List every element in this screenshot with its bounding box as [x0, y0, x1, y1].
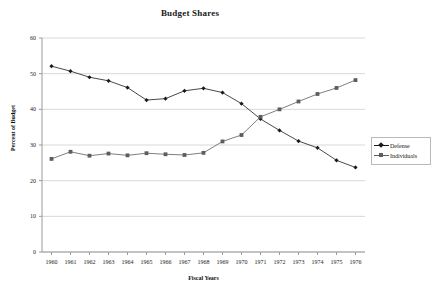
y-tick-label: 50 [30, 71, 36, 77]
x-axis-title: Fiscal Years [42, 275, 365, 281]
data-point[interactable] [87, 75, 91, 79]
chart-legend: Defense Individuals [371, 137, 431, 165]
data-point[interactable] [315, 146, 319, 150]
y-tick-label: 10 [30, 213, 36, 219]
data-point[interactable] [106, 79, 110, 83]
legend-marker-square-icon [373, 151, 390, 161]
data-point[interactable] [69, 150, 73, 154]
data-point[interactable] [182, 89, 186, 93]
data-point[interactable] [183, 153, 187, 157]
data-point[interactable] [354, 78, 358, 82]
data-series-layer [49, 64, 357, 169]
x-tick-label: 1966 [160, 259, 172, 265]
data-point[interactable] [353, 165, 357, 169]
data-point[interactable] [126, 153, 130, 157]
data-point[interactable] [220, 90, 224, 94]
data-point[interactable] [50, 157, 54, 161]
data-point[interactable] [297, 100, 301, 104]
x-tick-label: 1964 [122, 259, 134, 265]
x-tick-label: 1974 [312, 259, 324, 265]
legend-label-defense: Defense [390, 141, 410, 151]
series-line [52, 80, 356, 159]
legend-item-individuals[interactable]: Individuals [373, 151, 428, 161]
data-point[interactable] [277, 128, 281, 132]
data-point[interactable] [163, 97, 167, 101]
y-axis-ticks: 0102030405060 [30, 35, 42, 255]
y-tick-label: 30 [30, 142, 36, 148]
data-point[interactable] [240, 133, 244, 137]
data-point[interactable] [334, 158, 338, 162]
x-tick-label: 1970 [236, 259, 248, 265]
x-tick-label: 1960 [46, 259, 58, 265]
x-tick-label: 1969 [217, 259, 229, 265]
data-point[interactable] [335, 86, 339, 90]
data-point[interactable] [49, 64, 53, 68]
data-point[interactable] [107, 152, 111, 156]
data-point[interactable] [221, 140, 225, 144]
x-tick-label: 1968 [198, 259, 210, 265]
y-axis-title: Percent of Budget [10, 98, 16, 158]
data-point[interactable] [202, 151, 206, 155]
data-point[interactable] [316, 92, 320, 96]
x-tick-label: 1971 [255, 259, 267, 265]
series-individuals [50, 78, 358, 161]
legend-item-defense[interactable]: Defense [373, 141, 428, 151]
data-point[interactable] [68, 69, 72, 73]
x-tick-label: 1967 [179, 259, 191, 265]
gridlines [42, 38, 365, 252]
data-point[interactable] [144, 98, 148, 102]
x-tick-label: 1963 [103, 259, 115, 265]
y-tick-label: 40 [30, 106, 36, 112]
data-point[interactable] [259, 115, 263, 119]
x-tick-label: 1965 [141, 259, 153, 265]
x-tick-label: 1972 [274, 259, 286, 265]
data-point[interactable] [278, 107, 282, 111]
x-tick-label: 1961 [65, 259, 77, 265]
budget-shares-chart: Budget Shares 0102030405060 196019611962… [0, 0, 437, 297]
y-tick-label: 20 [30, 178, 36, 184]
legend-label-individuals: Individuals [390, 151, 417, 161]
x-axis-ticks: 1960196119621963196419651966196719681969… [46, 252, 362, 265]
x-tick-label: 1962 [84, 259, 96, 265]
data-point[interactable] [125, 85, 129, 89]
y-tick-label: 0 [33, 249, 36, 255]
x-tick-label: 1975 [331, 259, 343, 265]
legend-marker-diamond-icon [373, 141, 390, 151]
data-point[interactable] [88, 154, 92, 158]
data-point[interactable] [201, 86, 205, 90]
data-point[interactable] [145, 151, 149, 155]
data-point[interactable] [296, 139, 300, 143]
data-point[interactable] [164, 152, 168, 156]
y-tick-label: 60 [30, 35, 36, 41]
x-tick-label: 1976 [350, 259, 362, 265]
x-tick-label: 1973 [293, 259, 305, 265]
